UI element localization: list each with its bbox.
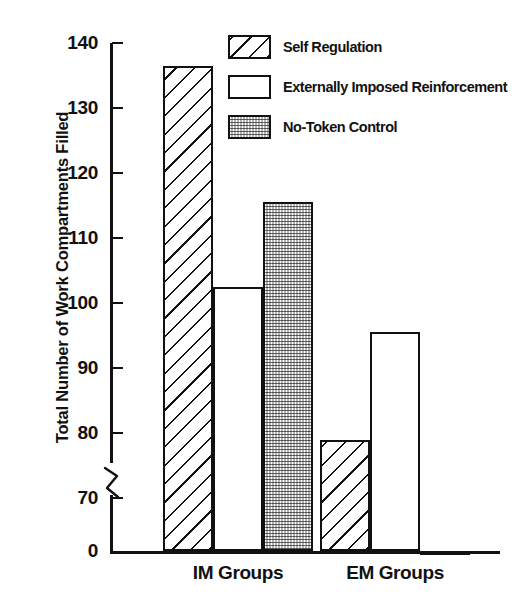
bar <box>420 551 470 555</box>
legend-label: Externally Imposed Reinforcement <box>283 79 507 95</box>
legend-swatch-open-icon <box>228 75 271 99</box>
y-tick-label: 70 <box>38 488 98 507</box>
chart-legend: Self RegulationExternally Imposed Reinfo… <box>228 30 507 150</box>
x-group-label-em: EM Groups <box>315 562 475 584</box>
legend-item: No-Token Control <box>228 110 507 144</box>
y-tick-label: 130 <box>38 98 98 117</box>
legend-item: Self Regulation <box>228 30 507 64</box>
legend-swatch-stipple-icon <box>228 115 271 139</box>
y-tick-label: 90 <box>38 358 98 377</box>
legend-item: Externally Imposed Reinforcement <box>228 70 507 104</box>
bar <box>320 440 370 552</box>
legend-label: No-Token Control <box>283 119 397 135</box>
bar <box>163 66 213 551</box>
y-tick-label: 110 <box>38 228 98 247</box>
legend-label: Self Regulation <box>283 39 382 55</box>
y-tick-label: 140 <box>38 33 98 52</box>
y-tick-label: 0 <box>38 541 98 560</box>
y-tick-label: 100 <box>38 293 98 312</box>
legend-swatch-hatch-icon <box>228 35 271 59</box>
x-group-label-im: IM Groups <box>158 562 318 584</box>
y-tick-label: 120 <box>38 163 98 182</box>
y-tick-label: 80 <box>38 423 98 442</box>
bar <box>370 332 420 551</box>
bar-chart-figure: Total Number of Work Compartments Filled… <box>0 0 518 615</box>
bar <box>213 287 263 551</box>
bar <box>263 202 313 551</box>
